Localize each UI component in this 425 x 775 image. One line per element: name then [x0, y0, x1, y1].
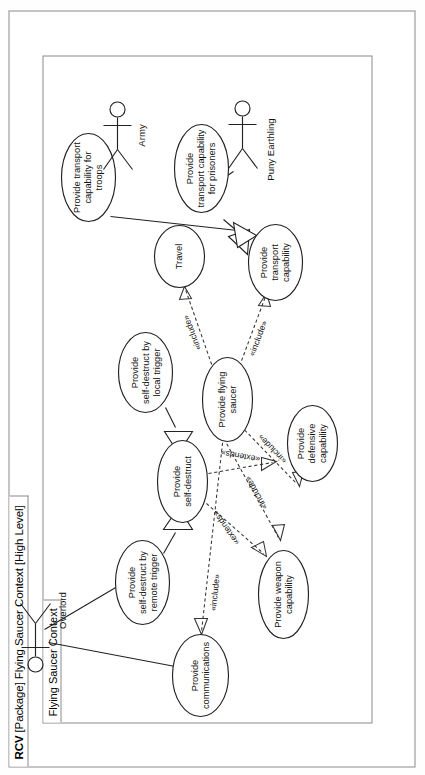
outer-frame-kind-label: RCV: [12, 735, 24, 759]
diagram-canvas: RCV [Package] Flying Saucer Context [Hig…: [0, 0, 425, 775]
inner-frame-name-label: Flying Saucer Context: [46, 608, 58, 716]
rotated-diagram-stage: RCV [Package] Flying Saucer Context [Hig…: [0, 0, 425, 775]
inner-frame-name-tab: Flying Saucer Context: [43, 599, 61, 722]
outer-frame-name-label: [Package] Flying Saucer Context [High Le…: [12, 505, 24, 735]
inner-package-frame: Flying Saucer Context: [42, 55, 372, 723]
outer-frame-name-tab: RCV [Package] Flying Saucer Context [Hig…: [9, 495, 28, 766]
